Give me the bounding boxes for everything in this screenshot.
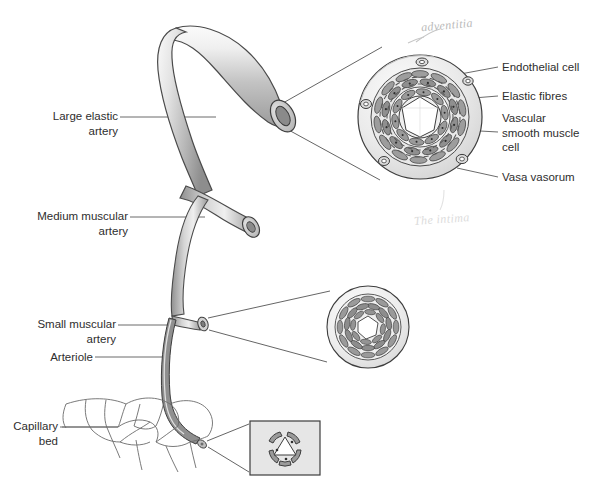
label-arteriole: Arteriole (0, 350, 93, 365)
label-endothelial-cell: Endothelial cell (502, 60, 592, 75)
large-elastic-artery-cross-section (358, 55, 482, 179)
arteriole-lumen (201, 443, 204, 446)
magline-small-bottom (209, 330, 327, 362)
intima-pointer-stroke (440, 190, 444, 210)
label-large-elastic-artery: Large elastic artery (0, 109, 118, 138)
magline-arteriole-bottom (208, 447, 249, 472)
label-vascular-smooth-muscle-cell: Vascular smooth muscle cell (502, 111, 592, 155)
small-muscular-artery-vessel (172, 316, 200, 330)
small-muscular-artery-cross-section (327, 286, 409, 368)
artery-diagram-figure: Large elastic artery Medium muscular art… (0, 0, 594, 482)
label-vasa-vasorum: Vasa vasorum (502, 170, 594, 185)
label-elastic-fibres: Elastic fibres (502, 89, 592, 104)
magline-small-top (208, 291, 330, 318)
adventitia-pointer-tick (408, 37, 424, 43)
magnification-lines (207, 47, 382, 472)
label-medium-muscular-artery: Medium muscular artery (0, 209, 128, 238)
arteriole-cross-section-inset (250, 421, 320, 475)
leader-vasa-vasorum (457, 168, 498, 177)
vessel-tree (158, 26, 301, 450)
magline-arteriole-top (207, 424, 249, 441)
label-capillary-bed: Capillary bed (0, 419, 58, 448)
trunk-to-small-artery (171, 196, 208, 316)
label-small-muscular-artery: Small muscular artery (0, 317, 116, 346)
